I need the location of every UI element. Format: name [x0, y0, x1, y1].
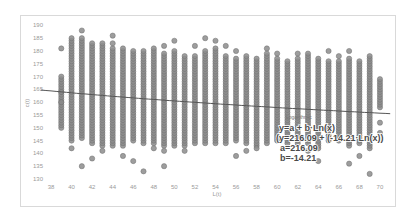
data-point [79, 28, 84, 33]
annotation-b-value: b=-14.21 [280, 153, 316, 163]
x-tick-label: 52 [192, 184, 199, 190]
data-point [305, 51, 310, 56]
data-point [326, 59, 331, 64]
data-point [172, 38, 177, 43]
data-point [203, 36, 208, 41]
annotation-equation-form: y=a + b·Ln(x) [279, 123, 335, 133]
x-tick-label: 70 [377, 184, 384, 190]
x-axis-label: L(t) [213, 191, 222, 197]
data-point [357, 153, 362, 158]
data-point [120, 153, 125, 158]
data-point [264, 51, 269, 56]
data-point [275, 51, 280, 56]
x-tick-label: 46 [130, 184, 137, 190]
data-point [367, 54, 372, 59]
data-point [316, 56, 321, 61]
data-point [151, 46, 156, 51]
y-tick-label: 190 [33, 22, 44, 28]
data-point [347, 161, 352, 166]
y-tick-label: 155 [33, 112, 44, 118]
x-tick-label: 62 [294, 184, 301, 190]
data-point [244, 54, 249, 59]
data-point [347, 56, 352, 61]
data-point [161, 148, 166, 153]
x-tick-label: 68 [356, 184, 363, 190]
data-point [110, 41, 115, 46]
data-point [141, 48, 146, 53]
data-point [151, 146, 156, 151]
x-tick-label: 38 [48, 184, 55, 190]
data-point [69, 146, 74, 151]
y-tick-label: 130 [33, 176, 44, 182]
data-point [326, 48, 331, 53]
data-point [295, 51, 300, 56]
x-tick-label: 54 [212, 184, 219, 190]
data-point [254, 56, 259, 61]
y-tick-label: 160 [33, 99, 44, 105]
data-point [90, 156, 95, 161]
x-tick-label: 44 [109, 184, 116, 190]
data-point [254, 146, 259, 151]
data-point [233, 48, 238, 53]
data-point [59, 46, 64, 51]
data-point [377, 77, 382, 82]
data-point [110, 33, 115, 38]
data-point [244, 148, 249, 153]
data-point [100, 148, 105, 153]
y-tick-label: 140 [33, 150, 44, 156]
data-point [131, 158, 136, 163]
data-point [192, 54, 197, 59]
data-point [79, 164, 84, 169]
data-point [203, 48, 208, 53]
y-tick-label: 180 [33, 48, 44, 54]
x-tick-label: 58 [253, 184, 260, 190]
data-point [120, 46, 125, 51]
x-tick-label: 56 [233, 184, 240, 190]
data-point [285, 59, 290, 64]
data-point [182, 54, 187, 59]
data-point [336, 59, 341, 64]
scatter-points [59, 28, 383, 177]
data-point [295, 56, 300, 61]
annotation-a-value: a=216.09 [280, 143, 318, 153]
data-point [131, 48, 136, 53]
x-tick-label: 60 [274, 184, 281, 190]
data-point [59, 100, 64, 105]
data-point [90, 41, 95, 46]
data-point [79, 36, 84, 41]
data-point [347, 48, 352, 53]
y-tick-label: 150 [33, 125, 44, 131]
data-point [316, 158, 321, 163]
x-tick-label: 50 [171, 184, 178, 190]
data-point [59, 74, 64, 79]
y-tick-label: 145 [33, 138, 44, 144]
data-point [69, 36, 74, 41]
x-tick-label: 66 [335, 184, 342, 190]
data-point [223, 43, 228, 48]
y-tick-label: 165 [33, 86, 44, 92]
x-tick-label: 40 [68, 184, 75, 190]
x-tick-label: 64 [315, 184, 322, 190]
annotation-title: Logarithmic [286, 114, 312, 120]
data-point [275, 56, 280, 61]
data-point [367, 171, 372, 176]
y-tick-label: 185 [33, 35, 44, 41]
y-axis-ticks: 130135140145150155160165170175180185190 [33, 22, 44, 182]
y-axis-label: c(t) [24, 99, 30, 108]
data-point [223, 54, 228, 59]
x-axis-ticks: 3840424446485052545658606264666870 [48, 184, 384, 190]
annotation-equation: (y=216.09 + (-14.21·Ln(x)) [276, 133, 384, 143]
data-point [213, 38, 218, 43]
data-point [357, 59, 362, 64]
data-point [182, 148, 187, 153]
data-point [141, 169, 146, 174]
data-point [233, 153, 238, 158]
data-point [336, 54, 341, 59]
data-point [161, 43, 166, 48]
data-point [264, 46, 269, 51]
data-point [233, 56, 238, 61]
y-tick-label: 170 [33, 74, 44, 80]
data-point [192, 43, 197, 48]
x-tick-label: 42 [89, 184, 96, 190]
data-point [377, 120, 382, 125]
